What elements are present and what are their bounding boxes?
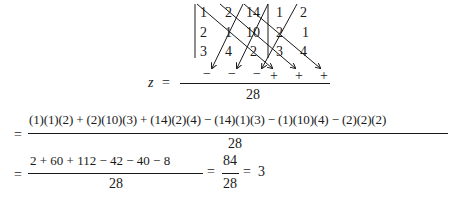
cell-r2c5: 1 bbox=[302, 26, 309, 40]
cell-r1c1: 1 bbox=[200, 6, 207, 20]
numerator-2: (1)(1)(2) + (2)(10)(3) + (14)(2)(4) − (1… bbox=[29, 112, 386, 128]
cell-r3c5: 4 bbox=[300, 45, 307, 59]
denominator-1: 28 bbox=[246, 87, 260, 103]
sign-minus-1: − bbox=[203, 67, 211, 81]
equals-sign-1: = bbox=[162, 75, 170, 91]
fraction-bar-1 bbox=[180, 83, 330, 84]
cell-r2c3: 10 bbox=[246, 26, 260, 40]
numerator-3: 2 + 60 + 112 − 42 − 40 − 8 bbox=[30, 153, 170, 169]
cell-r1c4: 1 bbox=[276, 6, 283, 20]
cell-r2c2: 1 bbox=[225, 26, 232, 40]
final-result: 3 bbox=[258, 164, 265, 180]
cell-r2c4: 2 bbox=[276, 26, 283, 40]
cell-r3c2: 4 bbox=[225, 45, 232, 59]
cell-r1c3: 14 bbox=[246, 6, 260, 20]
denominator-2: 28 bbox=[228, 136, 242, 152]
equals-sign-3: = bbox=[14, 167, 22, 183]
cell-r2c1: 2 bbox=[200, 26, 207, 40]
sign-minus-3: − bbox=[253, 67, 261, 81]
cell-r1c2: 2 bbox=[225, 6, 232, 20]
sign-minus-2: − bbox=[228, 67, 236, 81]
fraction-bar-2 bbox=[28, 133, 448, 134]
cell-r3c3: 2 bbox=[250, 45, 257, 59]
diagonal-plus-1 bbox=[197, 4, 272, 68]
equals-sign-5: = bbox=[243, 164, 251, 180]
equals-sign-4: = bbox=[207, 164, 215, 180]
cell-r3c1: 3 bbox=[200, 45, 207, 59]
sign-plus-2: + bbox=[295, 69, 303, 83]
simplified-numerator: 84 bbox=[223, 153, 237, 169]
simplified-denominator: 28 bbox=[223, 176, 237, 192]
equals-sign-2: = bbox=[14, 127, 22, 143]
cell-r3c4: 3 bbox=[276, 45, 283, 59]
sign-plus-1: + bbox=[270, 69, 278, 83]
fraction-bar-4 bbox=[222, 173, 239, 174]
fraction-bar-3 bbox=[28, 173, 203, 174]
cell-r1c5: 2 bbox=[300, 6, 307, 20]
sign-plus-3: + bbox=[320, 69, 328, 83]
variable-z: z bbox=[148, 75, 153, 91]
denominator-3: 28 bbox=[109, 176, 123, 192]
